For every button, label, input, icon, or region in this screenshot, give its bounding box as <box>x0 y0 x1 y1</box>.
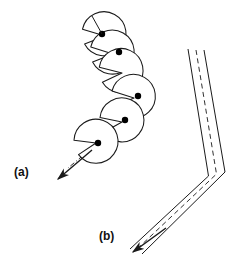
centre-dot <box>122 117 128 123</box>
diagram-canvas: (a) (b) <box>0 0 247 262</box>
centre-dot <box>95 140 101 146</box>
panel-label-a: (a) <box>14 165 29 179</box>
centre-dot <box>135 93 141 99</box>
figure-container: (a) (b) <box>0 0 247 262</box>
panel-label-b: (b) <box>99 229 114 243</box>
centre-dot <box>116 49 122 55</box>
